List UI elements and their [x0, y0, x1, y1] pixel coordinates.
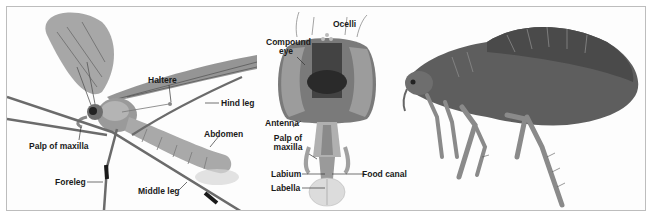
label-foreleg: Foreleg — [55, 178, 86, 187]
label-palp-of-maxilla: Palp of maxilla — [271, 134, 305, 152]
panel-flea — [397, 7, 645, 210]
label-hind-leg: Hind leg — [221, 99, 255, 108]
label-antenna: Antenna — [265, 119, 299, 128]
label-haltere: Haltere — [148, 76, 177, 85]
crane-fly-illustration — [7, 7, 257, 210]
figure-frame: Haltere Hind leg Abdomen Palp of maxilla… — [6, 6, 646, 211]
label-labium: Labium — [271, 170, 301, 179]
label-labella: Labella — [271, 184, 300, 193]
panel-crane-fly: Haltere Hind leg Abdomen Palp of maxilla… — [7, 7, 257, 210]
label-palp-of-maxilla: Palp of maxilla — [29, 142, 89, 151]
label-ocelli: Ocelli — [333, 20, 356, 29]
flea-illustration — [397, 7, 645, 210]
label-compound-eye-line2: eye — [279, 46, 293, 56]
label-compound-eye: Compound eye — [266, 38, 306, 56]
panel-fly-head: Ocelli Compound eye Antenna Palp of maxi… — [257, 7, 397, 210]
label-palp-line2: maxilla — [274, 142, 303, 152]
label-middle-leg: Middle leg — [138, 187, 180, 196]
label-abdomen: Abdomen — [204, 130, 243, 139]
